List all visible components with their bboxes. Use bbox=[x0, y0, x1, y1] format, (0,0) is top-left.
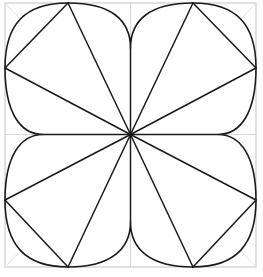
center-point bbox=[129, 133, 132, 136]
figure-root bbox=[0, 0, 263, 277]
rosette-diagram bbox=[0, 0, 263, 277]
